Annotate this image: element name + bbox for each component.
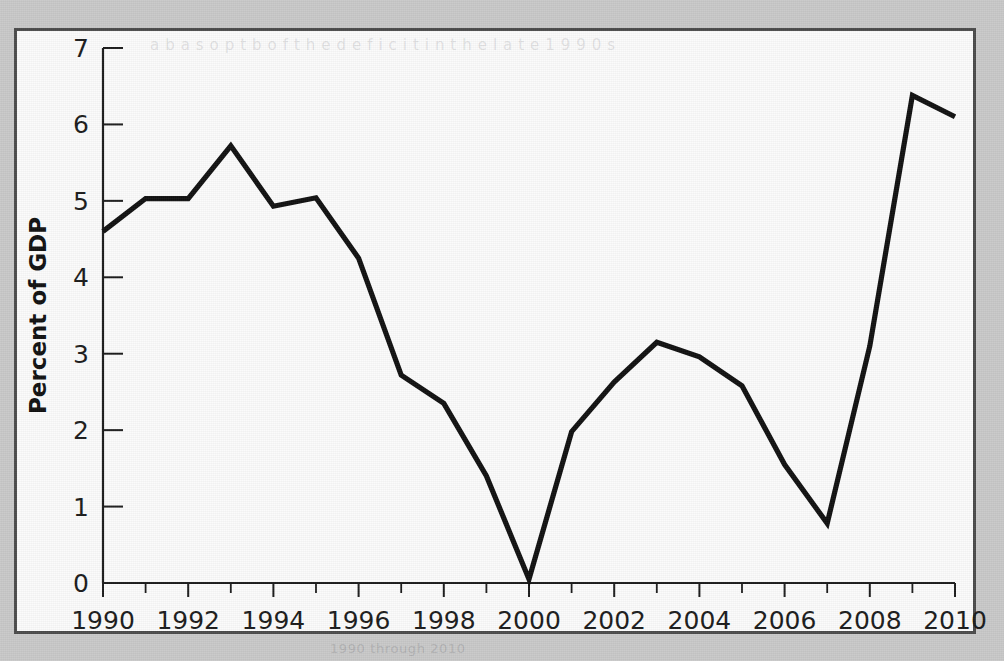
series-line-0	[103, 95, 955, 579]
x-tick-label-1994: 1994	[242, 606, 306, 635]
y-tick-label-6: 6	[73, 110, 89, 139]
x-axis: 1990199219941996199820002002200420062008…	[71, 583, 987, 635]
y-tick-label-3: 3	[73, 340, 89, 369]
x-tick-label-2008: 2008	[838, 606, 902, 635]
x-tick-label-1992: 1992	[156, 606, 220, 635]
y-tick-label-7: 7	[73, 34, 89, 63]
x-tick-label-1990: 1990	[71, 606, 135, 635]
x-tick-label-2010: 2010	[923, 606, 987, 635]
y-axis: 01234567	[73, 34, 123, 598]
y-tick-label-2: 2	[73, 416, 89, 445]
y-tick-label-0: 0	[73, 569, 89, 598]
y-tick-label-5: 5	[73, 187, 89, 216]
y-axis-title-label: Percent of GDP	[25, 217, 51, 414]
x-tick-label-2002: 2002	[582, 606, 646, 635]
x-tick-label-2006: 2006	[753, 606, 817, 635]
y-tick-label-1: 1	[73, 493, 89, 522]
y-tick-label-4: 4	[73, 263, 89, 292]
x-tick-label-2000: 2000	[497, 606, 561, 635]
line-chart: 01234567 1990199219941996199820002002200…	[0, 0, 1004, 661]
x-tick-label-1996: 1996	[327, 606, 391, 635]
data-series	[103, 95, 955, 579]
y-axis-title: Percent of GDP	[25, 217, 51, 414]
x-tick-label-1998: 1998	[412, 606, 476, 635]
x-tick-label-2004: 2004	[668, 606, 732, 635]
